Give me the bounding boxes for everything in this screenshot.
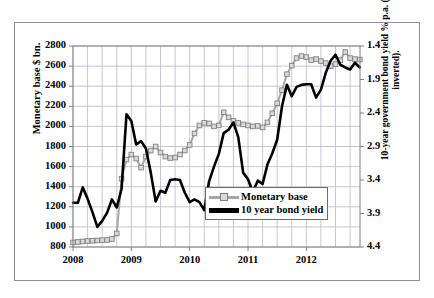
ytick-right-2-4: 2.4 (367, 106, 380, 117)
tick-marks (69, 46, 364, 251)
ytick-right-3-4: 3.4 (367, 173, 380, 184)
legend-label-bond-yield: 10 year bond yield (241, 204, 323, 216)
ytick-left-1400: 1400 (15, 180, 66, 191)
chart-legend: Monetary base 10 year bond yield (205, 187, 328, 220)
legend-item-bond-yield: 10 year bond yield (209, 203, 323, 216)
ytick-left-1000: 1000 (15, 220, 66, 231)
figure-container: 2800 2600 2400 2200 2000 1800 1600 1400 … (0, 0, 434, 298)
legend-item-monetary-base: Monetary base (209, 190, 323, 203)
legend-swatch-monetary-base-icon (209, 191, 239, 203)
xtick-2009: 2009 (101, 254, 161, 265)
y-axis-right-title-line1: 10-year government bond yield % p.a. (sc… (380, 0, 390, 160)
xtick-2010: 2010 (160, 254, 220, 265)
ytick-right-2-9: 2.9 (367, 140, 380, 151)
legend-label-monetary-base: Monetary base (241, 191, 308, 203)
legend-swatch-bond-yield-icon (209, 204, 239, 216)
xtick-2011: 2011 (218, 254, 278, 265)
ytick-left-1200: 1200 (15, 200, 66, 211)
y-axis-right-title: 10-year government bond yield % p.a. (sc… (380, 0, 402, 177)
ytick-right-3-9: 3.9 (367, 207, 380, 218)
chart-frame: 2800 2600 2400 2200 2000 1800 1600 1400 … (14, 22, 420, 281)
y-axis-right-title-line2: inverted). (391, 50, 401, 89)
chart-canvas (15, 23, 419, 280)
ytick-left-800: 800 (15, 240, 66, 251)
ytick-right-1-9: 1.9 (367, 73, 380, 84)
y-axis-left-title: Monetary base $ bn. (31, 14, 42, 164)
xtick-2012: 2012 (276, 254, 336, 265)
ytick-right-1-4: 1.4 (367, 39, 380, 50)
xtick-2008: 2008 (43, 254, 103, 265)
ytick-right-4-4: 4.4 (367, 240, 380, 251)
